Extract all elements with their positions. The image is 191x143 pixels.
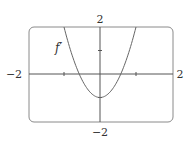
y-bottom-label: −2	[92, 126, 108, 139]
y-top-label: 2	[97, 13, 104, 26]
chart: 2 −2 −2 2 f′	[0, 0, 191, 143]
curve-label: f′	[54, 41, 62, 55]
x-right-label: 2	[177, 68, 184, 81]
x-left-label: −2	[6, 68, 22, 81]
